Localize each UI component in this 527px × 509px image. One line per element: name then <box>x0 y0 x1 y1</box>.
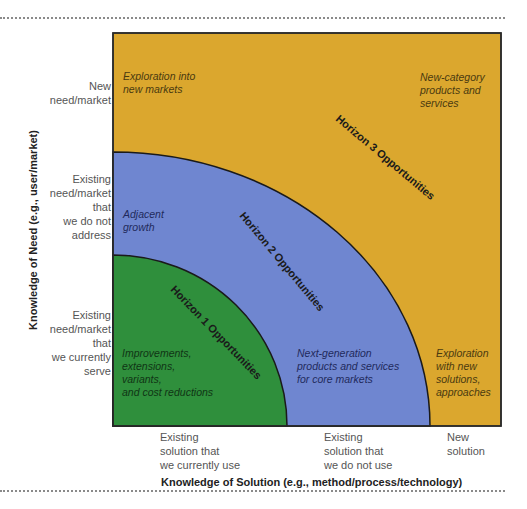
region-core-text: Improvements,extensions,variants,and cos… <box>122 347 213 399</box>
region-next-gen-text: Next-generationproducts and servicesfor … <box>297 347 399 386</box>
region-top-right-text: New-categoryproducts andservices <box>420 71 485 110</box>
y-tick-existing-served: Existingneed/marketthatwe currentlyserve <box>50 308 111 378</box>
x-tick-current-solution: Existingsolution thatwe currently use <box>160 430 240 472</box>
y-tick-existing-not-addressed: Existingneed/marketthatwe do notaddress <box>50 172 111 242</box>
x-tick-unused-solution: Existingsolution thatwe do not use <box>324 430 393 472</box>
region-adjacent-text: Adjacentgrowth <box>123 208 164 234</box>
y-axis-title: Knowledge of Need (e.g., user/market) <box>27 115 39 345</box>
x-tick-new-solution: Newsolution <box>447 430 485 458</box>
region-new-solutions-text: Explorationwith newsolutions,approaches <box>436 347 491 399</box>
y-tick-new-need: Newneed/market <box>50 79 111 107</box>
region-top-left-text: Exploration intonew markets <box>123 70 195 96</box>
x-axis-title: Knowledge of Solution (e.g., method/proc… <box>161 476 462 488</box>
